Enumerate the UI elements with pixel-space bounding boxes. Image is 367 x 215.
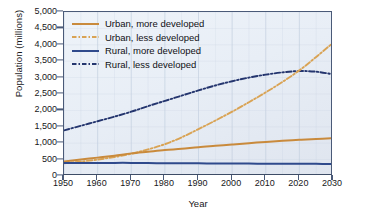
legend-item-label: Urban, less developed (105, 33, 200, 43)
y-tick-label: 500 (23, 154, 57, 164)
legend-item[interactable]: Urban, less developed (72, 31, 218, 45)
y-tick-label: 3,000 (23, 72, 57, 82)
legend-line-swatch (72, 45, 99, 57)
legend-item-label: Rural, more developed (105, 46, 201, 56)
y-tick-label: 5,000 (23, 6, 57, 16)
series-line (64, 71, 332, 130)
y-tick-label: 4,500 (23, 22, 57, 32)
legend-item[interactable]: Rural, more developed (72, 44, 218, 58)
y-tick-label: 4,000 (23, 39, 57, 49)
legend-item[interactable]: Rural, less developed (72, 58, 218, 72)
legend-item[interactable]: Urban, more developed (72, 17, 218, 31)
legend-line-swatch (72, 18, 99, 30)
legend-item-label: Rural, less developed (105, 60, 196, 70)
chart-figure: Population (millions) 05001,0001,5002,00… (0, 0, 367, 215)
y-tick-label: 1,500 (23, 121, 57, 131)
x-tick-label: 2030 (312, 178, 352, 188)
y-tick-label: 3,500 (23, 55, 57, 65)
series-line (64, 163, 332, 164)
legend-item-label: Urban, more developed (105, 19, 204, 29)
legend-line-swatch (72, 58, 99, 70)
x-axis-tick-labels: 195019601970198019902000201020202030 (0, 178, 367, 198)
y-tick-label: 1,000 (23, 137, 57, 147)
legend-line-swatch (72, 31, 99, 43)
y-tick-label: 2,000 (23, 104, 57, 114)
legend: Urban, more developedUrban, less develop… (72, 17, 218, 71)
y-tick-label: 2,500 (23, 88, 57, 98)
x-axis-title: Year (63, 198, 333, 209)
